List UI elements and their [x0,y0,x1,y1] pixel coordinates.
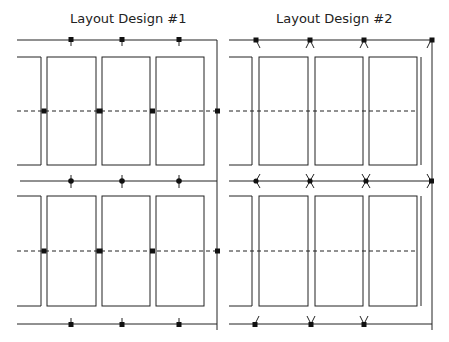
connector-node [429,179,434,184]
junction-node [42,249,47,254]
connector-node [177,37,182,42]
connector-node [68,178,74,184]
layout-1 [17,40,217,330]
junction-node [97,249,103,254]
connector-node [176,178,182,184]
layout-diagram [0,0,449,342]
connector-node [119,178,125,184]
connector-node [69,322,74,327]
junction-node [215,249,220,254]
connector-node [253,178,258,183]
connector-node [120,37,125,42]
junction-node [97,109,103,114]
connector-node [430,38,435,43]
connector-node [120,322,125,327]
connector-node [363,178,368,183]
connector-node [309,322,314,327]
connector-node [177,322,182,327]
connector-node [307,178,312,183]
connector-node [69,37,74,42]
junction-node [215,109,220,114]
junction-node [42,109,47,114]
connector-node [362,38,367,43]
connector-node [253,322,258,327]
connector-node [308,38,313,43]
connector-node [254,38,259,43]
junction-node [150,109,155,114]
junction-node [150,249,155,254]
connector-node [362,322,367,327]
layout-2 [229,40,432,330]
